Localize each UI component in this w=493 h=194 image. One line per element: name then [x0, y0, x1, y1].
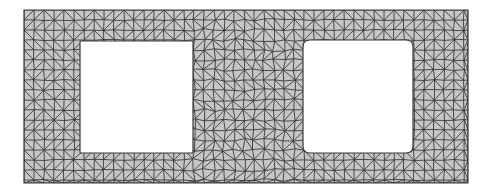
mesh-diagram: [0, 0, 493, 194]
